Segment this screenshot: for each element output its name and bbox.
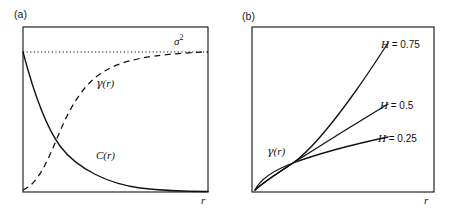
panel-a-frame bbox=[23, 27, 208, 192]
h-025-value: = 0.25 bbox=[386, 133, 417, 144]
h-05-variable: H bbox=[380, 99, 388, 111]
h-05-label: H = 0.5 bbox=[380, 99, 413, 111]
h-075-variable: H bbox=[381, 38, 389, 50]
panel-a-x-axis-label: r bbox=[201, 194, 205, 206]
figure-container: (a) σ2 γ(r) C(r) r (b) bbox=[0, 0, 451, 217]
variogram-label-arg: (r) bbox=[274, 145, 286, 157]
sill-label: σ2 bbox=[174, 33, 183, 47]
panel-a-plot bbox=[0, 0, 226, 217]
variogram-label-arg: (r) bbox=[103, 77, 115, 89]
variogram-label-gamma: γ bbox=[267, 145, 274, 158]
panel-a: (a) σ2 γ(r) C(r) r bbox=[0, 0, 226, 217]
h-05-value: = 0.5 bbox=[388, 100, 413, 111]
h-025-label: H = 0.25 bbox=[378, 132, 417, 144]
variogram-label: γ(r) bbox=[96, 77, 114, 90]
panel-b: (b) γ(r) H = 0.75 H = 0.5 H = 0.25 r bbox=[225, 0, 451, 217]
variogram-curve bbox=[23, 52, 208, 190]
panel-b-plot bbox=[225, 0, 451, 217]
panel-b-x-axis-label: r bbox=[424, 194, 428, 206]
h-075-value: = 0.75 bbox=[389, 39, 420, 50]
covariance-label: C(r) bbox=[96, 149, 115, 161]
variogram-label-gamma: γ bbox=[96, 77, 103, 90]
h-025-variable: H bbox=[378, 132, 386, 144]
sill-label-exponent: 2 bbox=[179, 33, 183, 42]
variogram-label: γ(r) bbox=[267, 145, 285, 158]
h-075-label: H = 0.75 bbox=[381, 38, 420, 50]
covariance-curve bbox=[23, 52, 208, 192]
